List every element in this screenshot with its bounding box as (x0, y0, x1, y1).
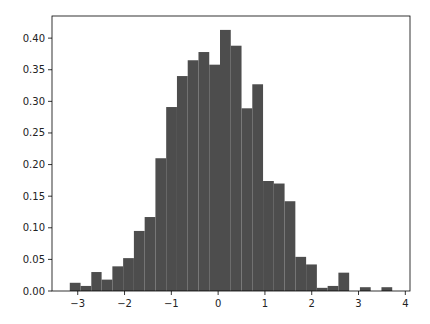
y-tick-label: 0.40 (23, 33, 45, 44)
x-tick-label: −1 (164, 298, 179, 309)
histogram-bar (102, 280, 113, 291)
histogram-bar (134, 231, 145, 291)
histogram-bar (306, 264, 317, 291)
x-tick-label: −2 (117, 298, 132, 309)
chart-canvas: −3−2−101234 0.000.050.100.150.200.250.30… (0, 0, 430, 324)
x-tick-label: 2 (309, 298, 315, 309)
histogram-chart: −3−2−101234 0.000.050.100.150.200.250.30… (0, 0, 430, 324)
histogram-bar (317, 288, 328, 291)
x-tick-label: 3 (355, 298, 361, 309)
histogram-bar (231, 46, 242, 291)
histogram-bar (285, 201, 296, 291)
histogram-bar (112, 266, 123, 291)
histogram-bar (328, 286, 339, 291)
x-tick-label: 4 (402, 298, 408, 309)
histogram-bar (295, 257, 306, 291)
histogram-bar (81, 286, 92, 291)
histogram-bar (274, 184, 285, 291)
x-tick-label: −3 (70, 298, 85, 309)
y-tick-label: 0.15 (23, 191, 45, 202)
y-tick-label: 0.10 (23, 222, 45, 233)
histogram-bars (70, 30, 392, 291)
histogram-bar (70, 283, 81, 291)
y-tick-label: 0.00 (23, 286, 45, 297)
y-tick-label: 0.35 (23, 64, 45, 75)
histogram-bar (123, 258, 134, 291)
histogram-bar (177, 76, 188, 291)
histogram-bar (145, 217, 156, 291)
x-axis-ticks: −3−2−101234 (70, 291, 408, 309)
histogram-bar (220, 30, 231, 291)
histogram-bar (242, 108, 253, 291)
histogram-bar (209, 65, 220, 291)
y-tick-label: 0.05 (23, 254, 45, 265)
histogram-bar (188, 60, 199, 291)
histogram-bar (338, 273, 349, 291)
histogram-bar (381, 287, 392, 291)
y-tick-label: 0.25 (23, 127, 45, 138)
histogram-bar (252, 84, 263, 291)
histogram-bar (198, 52, 209, 291)
histogram-bar (360, 287, 371, 291)
x-tick-label: 1 (262, 298, 268, 309)
y-tick-label: 0.30 (23, 96, 45, 107)
y-tick-label: 0.20 (23, 159, 45, 170)
histogram-bar (91, 272, 101, 291)
histogram-bar (155, 158, 166, 291)
x-tick-label: 0 (215, 298, 221, 309)
histogram-bar (263, 181, 274, 291)
y-axis-ticks: 0.000.050.100.150.200.250.300.350.40 (23, 33, 52, 297)
histogram-bar (166, 107, 177, 291)
